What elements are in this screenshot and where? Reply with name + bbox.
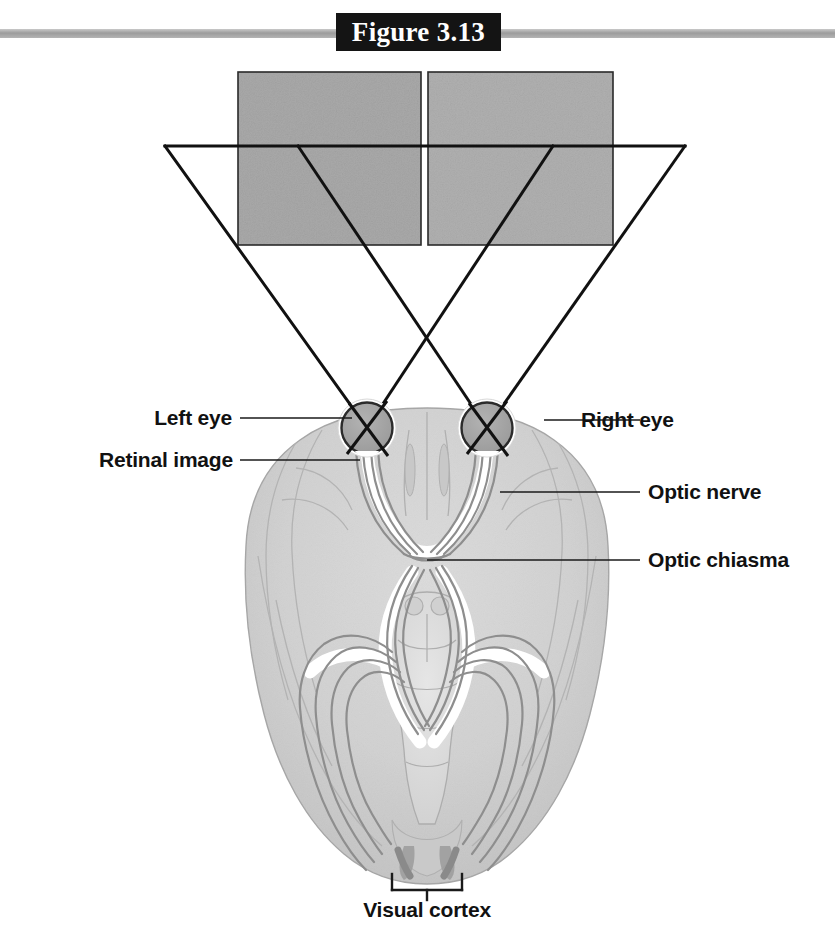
callout-right-eye: Right eye — [581, 408, 674, 432]
brain-group — [245, 408, 608, 884]
callout-retinal-image: Retinal image — [99, 448, 232, 472]
callout-optic-chiasma: Optic chiasma — [648, 548, 789, 572]
callout-visual-cortex: Visual cortex — [310, 898, 544, 922]
callout-optic-nerve: Optic nerve — [648, 480, 761, 504]
visual-field-group — [238, 72, 613, 245]
visual-field-left-half — [238, 72, 421, 245]
figure-page: Figure 3.13 — [0, 0, 835, 930]
visual-field-right-half — [428, 72, 613, 245]
callout-left-eye: Left eye — [126, 406, 232, 430]
